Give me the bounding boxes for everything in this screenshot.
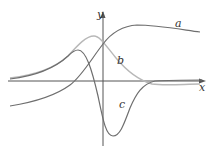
curve-c-label: c	[119, 98, 125, 111]
curve-a-label: a	[175, 17, 182, 30]
curve-c	[10, 50, 202, 136]
curve-b	[10, 36, 200, 85]
y-axis-label: y	[96, 8, 104, 21]
x-axis-label: x	[199, 81, 206, 94]
curve-b-label: b	[117, 54, 124, 67]
chart-canvas: y x a b c	[0, 0, 212, 150]
curve-a	[10, 25, 200, 106]
